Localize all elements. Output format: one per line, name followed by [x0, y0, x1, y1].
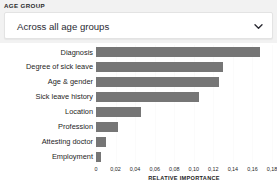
bar-category-label: Degree of sick leave [26, 61, 93, 72]
x-axis-tick-label: 0 [95, 166, 98, 173]
age-group-selected-value: Across all age groups [17, 21, 109, 33]
bar[interactable] [96, 152, 101, 162]
x-axis-tick-label: 0,04 [130, 166, 141, 173]
x-axis-tick-label: 0,16 [247, 166, 258, 173]
relative-importance-bar-chart: DiagnosisDegree of sick leaveAge & gende… [0, 43, 277, 184]
bar[interactable] [96, 122, 118, 132]
x-axis-tick-label: 0,12 [208, 166, 219, 173]
bar-category-label: Age & gender [48, 76, 93, 87]
bar-category-label: Sick leave history [35, 91, 93, 102]
bar-row: Profession [96, 119, 272, 134]
bar-row: Location [96, 105, 272, 120]
bar-row: Diagnosis [96, 45, 272, 60]
bar-row: Attesting doctor [96, 134, 272, 149]
chevron-down-icon[interactable] [254, 23, 263, 30]
gridline [272, 45, 273, 164]
bar-category-label: Diagnosis [61, 47, 93, 58]
x-axis-title: RELATIVE IMPORTANCE [96, 174, 272, 182]
x-axis-tick-label: 0,18 [267, 166, 277, 173]
bar-category-label: Employment [52, 151, 93, 162]
bar[interactable] [96, 77, 219, 87]
age-group-select[interactable]: Across all age groups [4, 12, 273, 39]
x-axis-tick-label: 0,08 [169, 166, 180, 173]
x-axis-tick-label: 0,10 [189, 166, 200, 173]
bar-row: Age & gender [96, 75, 272, 90]
plot-area: DiagnosisDegree of sick leaveAge & gende… [96, 45, 272, 164]
bar[interactable] [96, 62, 223, 72]
bar[interactable] [96, 47, 260, 57]
relative-importance-panel: AGE GROUP Across all age groups Diagnosi… [0, 0, 277, 184]
x-axis-tick-label: 0,14 [228, 166, 239, 173]
bar-category-label: Attesting doctor [42, 136, 93, 147]
bar-row: Sick leave history [96, 90, 272, 105]
x-axis-tick-label: 0,06 [149, 166, 160, 173]
bar-row: Employment [96, 149, 272, 164]
bar[interactable] [96, 137, 106, 147]
age-group-filter: AGE GROUP Across all age groups [0, 0, 277, 43]
bar[interactable] [96, 107, 141, 117]
bar-row: Degree of sick leave [96, 60, 272, 75]
age-group-label: AGE GROUP [4, 2, 45, 10]
bar-series: DiagnosisDegree of sick leaveAge & gende… [96, 45, 272, 164]
bar-category-label: Location [65, 106, 93, 117]
bar-category-label: Profession [58, 121, 93, 132]
bar[interactable] [96, 92, 199, 102]
x-axis-tick-label: 0,02 [110, 166, 121, 173]
